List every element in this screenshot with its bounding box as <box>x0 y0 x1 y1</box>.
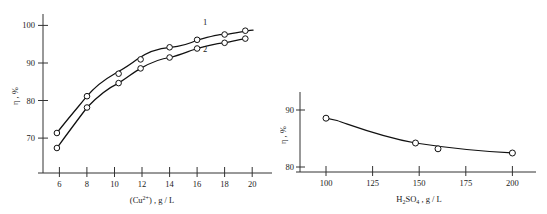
left-x-ticklabel-8: 8 <box>85 179 89 189</box>
left-x-ticklabel-20: 20 <box>248 179 257 189</box>
right-series-1 <box>323 115 515 156</box>
left-x-ticklabel-12: 12 <box>138 179 147 189</box>
right-x-axis-title: H2SO4 , g / L <box>396 194 441 205</box>
chart-panel-left: 100 90 80 70 η , % 6 8 10 <box>0 0 280 214</box>
right-marker-200 <box>509 150 515 156</box>
left-x-ticklabel-16: 16 <box>193 179 202 189</box>
left-series-1: 1 <box>54 17 253 136</box>
left-curve-2 <box>57 39 245 148</box>
right-marker-100 <box>323 115 329 121</box>
right-x-ticks <box>326 166 512 176</box>
left-curve-label-1: 1 <box>203 17 207 27</box>
right-x-axis-title-mid: SO <box>405 194 416 204</box>
right-x-ticklabels: 100 125 150 175 200 <box>320 178 519 188</box>
right-markers <box>323 115 515 156</box>
right-x-ticklabel-125: 125 <box>366 178 379 188</box>
left-x-axis-title-post: ) , g / L <box>149 195 174 205</box>
left-x-axis-title: (Cu2+) , g / L <box>130 195 174 205</box>
left-series-2: 2 <box>54 36 248 151</box>
right-marker-160 <box>435 146 441 152</box>
figure-root: 100 90 80 70 η , % 6 8 10 <box>0 0 547 214</box>
left-x-ticklabel-6: 6 <box>57 179 61 189</box>
right-x-ticklabel-100: 100 <box>320 178 333 188</box>
left-x-ticklabel-14: 14 <box>165 179 174 189</box>
right-y-axis-title: η , % <box>280 126 288 144</box>
left-y-ticklabel-100: 100 <box>22 20 35 30</box>
left-x-ticklabel-10: 10 <box>110 179 119 189</box>
left-y-axis-title: η , % <box>10 87 20 105</box>
right-y-ticklabel-80: 80 <box>286 162 295 172</box>
right-x-axis-title-post: , g / L <box>419 194 441 204</box>
left-x-ticklabels: 6 8 10 12 14 16 18 20 <box>57 179 256 189</box>
left-x-ticklabel-18: 18 <box>220 179 229 189</box>
left-chart-svg: 100 90 80 70 η , % 6 8 10 <box>0 0 280 214</box>
right-x-ticklabel-150: 150 <box>413 178 426 188</box>
right-curve <box>326 118 512 153</box>
left-curve-label-2: 2 <box>203 44 207 54</box>
left-y-ticklabel-70: 70 <box>27 133 36 143</box>
left-x-ticks <box>59 167 252 177</box>
left-y-ticklabel-90: 90 <box>27 58 36 68</box>
left-x-axis-title-pre: (Cu <box>130 195 144 205</box>
right-x-ticklabel-200: 200 <box>506 178 519 188</box>
left-y-ticklabels: 100 90 80 70 <box>22 20 35 143</box>
left-markers-1 <box>54 28 248 136</box>
right-chart-svg: 90 80 η , % 100 125 150 175 200 <box>280 0 547 214</box>
right-y-ticklabel-90: 90 <box>286 105 295 115</box>
right-marker-148 <box>413 140 419 146</box>
chart-panel-right: 90 80 η , % 100 125 150 175 200 <box>280 0 547 214</box>
left-markers-2 <box>54 36 248 151</box>
right-x-ticklabel-175: 175 <box>459 178 472 188</box>
left-y-ticklabel-80: 80 <box>27 96 36 106</box>
